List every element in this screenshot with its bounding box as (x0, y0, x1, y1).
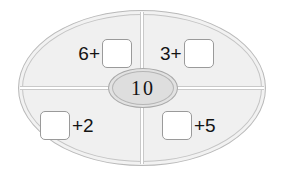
quadrant-bottom-right: + 5 (160, 106, 256, 144)
addend-bottom-right: 5 (205, 116, 216, 135)
operator-bottom-right: + (194, 116, 205, 135)
answer-box-bottom-left[interactable] (40, 111, 70, 140)
center-total-value: 10 (131, 78, 155, 98)
addend-top-right: 3 (160, 44, 171, 63)
operator-top-right: + (171, 44, 182, 63)
quadrant-top-right: 3 + (160, 34, 256, 72)
operator-top-left: + (89, 44, 100, 63)
operator-bottom-left: + (72, 116, 83, 135)
answer-box-bottom-right[interactable] (162, 111, 192, 140)
answer-box-top-right[interactable] (184, 39, 214, 68)
quadrant-bottom-left: + 2 (38, 106, 134, 144)
center-oval: 10 (112, 71, 174, 105)
quadrant-top-left: 6 + (38, 34, 134, 72)
addend-top-left: 6 (78, 44, 89, 63)
addition-oval-worksheet: 10 6 + 3 + + 2 + 5 (0, 0, 284, 177)
addend-bottom-left: 2 (83, 116, 94, 135)
answer-box-top-left[interactable] (102, 39, 132, 68)
